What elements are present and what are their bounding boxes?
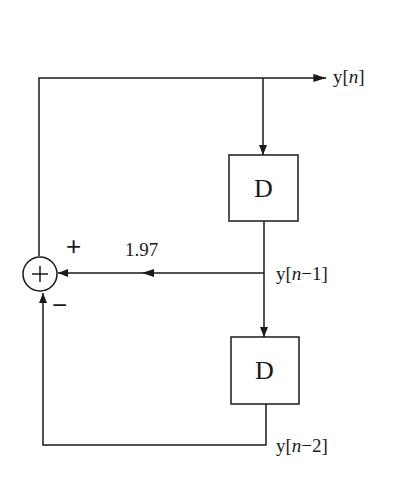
minus-sign-label: − (52, 292, 67, 318)
gain-label: 1.97 (125, 240, 158, 259)
delay2-label: D (255, 358, 274, 384)
gain-arrowhead-icon (142, 269, 154, 277)
output-wire (39, 78, 326, 256)
delayed2-signal-label: y[n−2] (276, 436, 328, 455)
block-diagram: + − 1.97 D D y[n] y[n−1] y[n−2] (0, 0, 394, 478)
delay1-label: D (254, 176, 273, 202)
output-signal-label: y[n] (333, 67, 365, 86)
delayed1-signal-label: y[n−1] (276, 264, 328, 283)
plus-sign-label: + (66, 233, 81, 259)
feedback-wire-2 (43, 293, 266, 445)
